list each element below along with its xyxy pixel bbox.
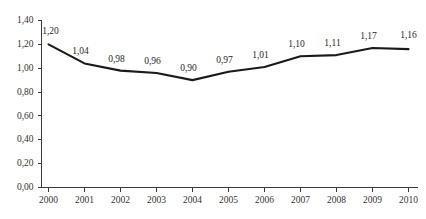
x-tick-label: 2007 xyxy=(291,195,310,205)
x-tick-label: 2009 xyxy=(363,195,382,205)
x-axis-group xyxy=(42,188,419,192)
y-tick-label: 0,80 xyxy=(17,87,34,97)
x-tick-label: 2001 xyxy=(75,195,94,205)
x-tick-label: 2000 xyxy=(39,195,58,205)
line-chart: 0,000,200,400,600,801,001,201,40 2000200… xyxy=(0,0,426,219)
y-tick-label: 0,60 xyxy=(17,111,34,121)
data-point-label: 1,16 xyxy=(400,30,417,40)
y-tick-label: 1,40 xyxy=(17,15,34,25)
data-point-label: 1,20 xyxy=(42,26,59,36)
x-tick-label: 2010 xyxy=(399,195,418,205)
y-tick-label: 0,20 xyxy=(17,158,34,168)
x-tick-label: 2002 xyxy=(111,195,130,205)
x-tick-label: 2003 xyxy=(147,195,166,205)
data-point-label: 1,04 xyxy=(72,46,89,56)
x-tick-labels: 2000200120022003200420052006200720082009… xyxy=(39,195,418,205)
chart-canvas: 0,000,200,400,600,801,001,201,40 2000200… xyxy=(0,0,426,219)
x-tick-group xyxy=(49,188,409,192)
data-point-label: 1,10 xyxy=(288,39,305,49)
data-point-label: 0,98 xyxy=(108,54,125,64)
y-tick-label: 1,20 xyxy=(17,39,34,49)
x-tick-label: 2008 xyxy=(327,195,346,205)
y-tick-labels: 0,000,200,400,600,801,001,201,40 xyxy=(17,15,34,192)
y-axis-group xyxy=(38,21,42,188)
x-tick-label: 2004 xyxy=(183,195,202,205)
y-tick-label: 0,00 xyxy=(17,182,34,192)
data-point-label: 1,17 xyxy=(360,31,377,41)
y-tick-label: 0,40 xyxy=(17,134,34,144)
x-tick-label: 2005 xyxy=(219,195,238,205)
x-tick-label: 2006 xyxy=(255,195,274,205)
data-point-label: 1,11 xyxy=(324,38,341,48)
data-point-label: 0,97 xyxy=(216,55,233,65)
data-point-label: 1,01 xyxy=(252,50,269,60)
y-tick-label: 1,00 xyxy=(17,63,34,73)
y-tick-group xyxy=(38,21,42,188)
data-point-label: 0,90 xyxy=(180,63,197,73)
data-point-label: 0,96 xyxy=(144,56,161,66)
